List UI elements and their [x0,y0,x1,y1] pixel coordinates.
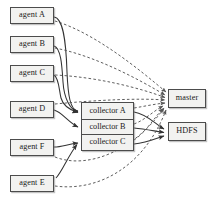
node-collector-c-label: collector C [89,138,125,146]
solid-edges-agents-to-collectors [54,17,78,178]
node-agent-e-label: agent E [19,179,44,187]
node-agent-a-label: agent A [19,11,45,19]
node-collector-a[interactable]: collector A [82,103,133,119]
node-agent-f[interactable]: agent F [10,139,54,156]
node-agent-e[interactable]: agent E [10,175,54,192]
node-agent-b[interactable]: agent B [10,36,54,53]
node-agent-d-label: agent D [19,105,45,113]
node-agent-c-label: agent C [19,69,45,77]
architecture-diagram: agent A agent B agent C agent D agent F … [0,0,211,212]
node-master[interactable]: master [168,89,206,108]
edge-agent-c-to-collector-a [54,75,78,113]
node-hdfs-label: HDFS [176,127,197,135]
edge-agent-f-to-collector-c [54,143,78,147]
node-agent-c[interactable]: agent C [10,65,54,82]
solid-edges-collectors-to-hdfs [134,112,164,144]
edge-agent-c-to-master [55,75,165,98]
node-collector-a-label: collector A [89,107,125,115]
node-agent-a[interactable]: agent A [10,7,54,24]
edge-agent-a-to-master [55,21,166,92]
edge-collector-b-to-master [134,106,163,124]
collector-stack: collector A collector B collector C [81,102,134,151]
node-agent-d[interactable]: agent D [10,101,54,118]
edge-agent-d-to-collector-b [54,110,78,127]
edge-agent-b-to-master [55,48,165,95]
node-agent-f-label: agent F [19,143,44,151]
dashed-edges-collectors-to-master [134,103,165,140]
node-collector-c[interactable]: collector C [82,134,133,150]
node-master-label: master [176,94,198,102]
node-collector-b-label: collector B [89,123,125,131]
node-hdfs[interactable]: HDFS [168,122,206,141]
edge-collector-b-to-hdfs [134,128,164,133]
node-agent-b-label: agent B [19,40,45,48]
node-collector-b[interactable]: collector B [82,119,133,135]
